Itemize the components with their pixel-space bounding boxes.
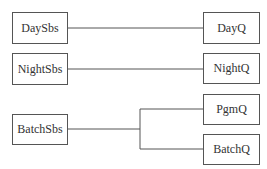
node-dayq: DayQ — [203, 12, 260, 44]
node-label: NightSbs — [18, 62, 63, 77]
node-daysbs: DaySbs — [12, 12, 68, 44]
node-label: DaySbs — [21, 21, 58, 36]
node-label: BatchQ — [213, 142, 250, 157]
node-label: BatchSbs — [17, 122, 62, 137]
node-label: NightQ — [214, 61, 250, 76]
node-batchsbs: BatchSbs — [12, 114, 68, 145]
node-nightq: NightQ — [203, 53, 260, 84]
node-label: DayQ — [217, 21, 246, 36]
node-nightsbs: NightSbs — [12, 53, 68, 85]
node-label: PgmQ — [216, 102, 247, 117]
node-pgmq: PgmQ — [203, 94, 260, 125]
node-batchq: BatchQ — [203, 134, 260, 165]
